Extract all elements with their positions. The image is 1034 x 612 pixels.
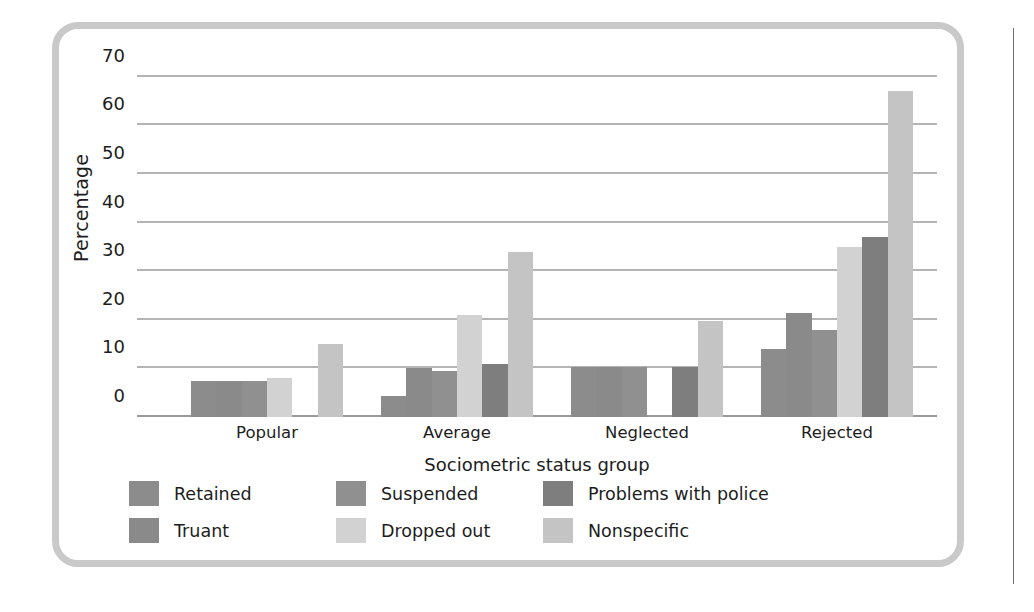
y-tick-label-60: 60 — [85, 93, 125, 114]
bar — [242, 381, 267, 417]
x-tick-label-neglected: Neglected — [577, 423, 717, 442]
bar — [698, 321, 723, 417]
gridline-40 — [137, 221, 937, 223]
x-tick-label-rejected: Rejected — [767, 423, 907, 442]
gridline-30 — [137, 269, 937, 271]
gridline-70 — [137, 75, 937, 77]
legend-item: Dropped out — [336, 518, 543, 543]
legend-label: Dropped out — [381, 521, 490, 541]
bar — [786, 313, 811, 418]
legend-item: Suspended — [336, 481, 543, 506]
legend-row: RetainedSuspendedProblems with police — [129, 481, 919, 506]
legend-item: Problems with police — [543, 481, 843, 506]
bar — [837, 247, 862, 417]
x-tick-label-popular: Popular — [197, 423, 337, 442]
bar — [672, 367, 697, 417]
legend-swatch-icon — [543, 481, 573, 506]
legend-swatch-icon — [336, 518, 366, 543]
y-tick-label-50: 50 — [85, 142, 125, 163]
bar — [457, 315, 482, 417]
legend-item: Retained — [129, 481, 336, 506]
legend-swatch-icon — [336, 481, 366, 506]
page-margin-rule — [1013, 28, 1014, 584]
legend-label: Nonspecific — [588, 521, 689, 541]
legend-label: Problems with police — [588, 484, 769, 504]
figure-frame: Percentage 010203040506070 PopularAverag… — [52, 22, 964, 567]
legend-swatch-icon — [129, 481, 159, 506]
bar — [508, 252, 533, 417]
y-tick-label-10: 10 — [85, 336, 125, 357]
legend-item: Truant — [129, 518, 336, 543]
bar — [761, 349, 786, 417]
y-tick-label-30: 30 — [85, 239, 125, 260]
bar — [812, 330, 837, 418]
legend-item: Nonspecific — [543, 518, 843, 543]
legend-label: Retained — [174, 484, 252, 504]
gridline-60 — [137, 123, 937, 125]
bar — [571, 367, 596, 417]
chart-legend: RetainedSuspendedProblems with policeTru… — [129, 481, 919, 555]
gridline-20 — [137, 318, 937, 320]
legend-swatch-icon — [129, 518, 159, 543]
y-tick-label-40: 40 — [85, 191, 125, 212]
gridline-50 — [137, 172, 937, 174]
bar — [622, 367, 647, 417]
legend-label: Truant — [174, 521, 229, 541]
x-axis-title: Sociometric status group — [137, 454, 937, 475]
page-canvas: Percentage 010203040506070 PopularAverag… — [0, 0, 1034, 612]
legend-row: TruantDropped outNonspecific — [129, 518, 919, 543]
bar — [482, 364, 507, 417]
bar — [191, 381, 216, 417]
bar — [432, 371, 457, 417]
y-tick-label-70: 70 — [85, 45, 125, 66]
x-tick-label-average: Average — [387, 423, 527, 442]
y-tick-label-20: 20 — [85, 288, 125, 309]
y-tick-label-0: 0 — [85, 385, 125, 406]
legend-label: Suspended — [381, 484, 478, 504]
bar — [862, 237, 887, 417]
bar — [216, 381, 241, 417]
plot-area: 010203040506070 PopularAverageNeglectedR… — [137, 67, 937, 417]
bar — [596, 367, 621, 417]
bar — [318, 344, 343, 417]
legend-swatch-icon — [543, 518, 573, 543]
bar — [888, 91, 913, 417]
bar — [406, 368, 431, 417]
bar-chart: Percentage 010203040506070 PopularAverag… — [59, 29, 971, 574]
bar — [267, 378, 292, 417]
bar — [381, 396, 406, 417]
